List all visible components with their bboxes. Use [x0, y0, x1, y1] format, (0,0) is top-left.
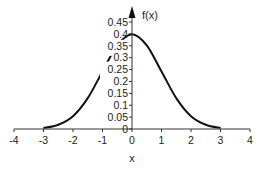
y-tick-label: 0.05: [108, 111, 129, 123]
y-tick-label: 0: [122, 123, 128, 135]
y-tick-label: 0.1: [113, 99, 128, 111]
y-tick-label: 0.15: [108, 87, 129, 99]
x-tick-label: -2: [68, 134, 77, 146]
y-tick-label: 0.45: [108, 16, 129, 28]
y-tick-label: 0.35: [108, 40, 129, 52]
y-tick-label: 0.2: [113, 75, 128, 87]
x-tick-label: 1: [159, 134, 165, 146]
x-tick-label: -1: [98, 134, 107, 146]
x-tick-label: 2: [188, 134, 194, 146]
x-axis-title: x: [129, 152, 135, 164]
x-tick-label: -4: [9, 134, 18, 146]
y-tick-label: 0.25: [108, 63, 129, 75]
x-tick-label: 3: [218, 134, 224, 146]
y-tick-label: 0.3: [113, 51, 128, 63]
y-tick-label: 0.4: [113, 28, 128, 40]
x-tick-label: -3: [39, 134, 48, 146]
x-tick-label: 0: [129, 134, 135, 146]
normal-distribution-chart: -4-3-2-101234 00.050.10.150.20.250.30.35…: [0, 0, 264, 172]
y-axis-title: f(x): [142, 9, 158, 21]
x-tick-label: 4: [247, 134, 253, 146]
y-axis-arrow-icon: [129, 6, 136, 18]
